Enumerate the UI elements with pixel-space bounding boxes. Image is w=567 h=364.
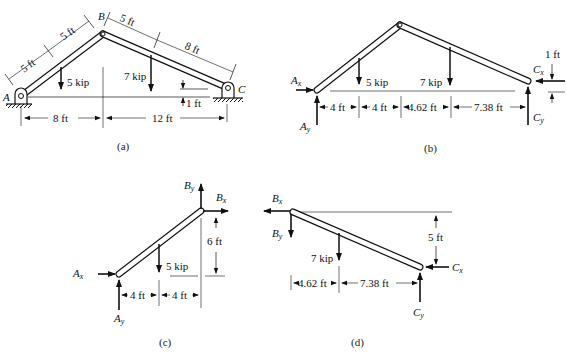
dim-d-2: 7.38 ft <box>360 277 389 289</box>
dim-label-ab-2: 5 ft <box>58 24 77 43</box>
force-bx-label-d: Bx <box>272 192 283 206</box>
force-cy-label-d: Cy <box>413 306 424 320</box>
rise-label-b: 1 ft <box>545 48 560 60</box>
point-b-label: B <box>98 10 105 22</box>
height-label-d: 5 ft <box>428 231 443 243</box>
dim-label-bc-1: 5 ft <box>118 11 136 28</box>
force-by-label-c: By <box>184 179 195 193</box>
dim-label-bc-2: 8 ft <box>183 39 201 56</box>
dim-c-2: 4 ft <box>172 289 187 301</box>
member-bc-b <box>400 25 528 81</box>
force-ax-label-c: Ax <box>72 267 84 281</box>
rise-label-a: 1 ft <box>186 97 201 109</box>
height-label-c: 6 ft <box>207 235 222 247</box>
load-label-5kip-b: 5 kip <box>366 76 389 88</box>
dim-b-2: 4 ft <box>372 101 387 113</box>
member-ab-c <box>119 211 201 274</box>
force-ay-label-c: Ay <box>113 312 125 326</box>
force-cy-label: Cy <box>533 111 544 125</box>
load-label-7kip-b: 7 kip <box>420 76 443 88</box>
force-cx-label-d: Cx <box>452 261 463 275</box>
caption-c: (c) <box>159 336 172 349</box>
load-label-5kip: 5 kip <box>67 76 90 88</box>
member-bc <box>103 34 228 88</box>
truss-figure: 1 ft 5 kip 7 kip 5 ft 5 ft 5 ft 8 ft A B… <box>0 0 567 364</box>
load-label-5kip-c: 5 kip <box>166 260 189 272</box>
force-cx-label: Cx <box>533 63 544 77</box>
caption-b: (b) <box>424 142 437 155</box>
point-a-label: A <box>2 91 10 103</box>
point-c-label: C <box>238 83 246 95</box>
force-ay-label: Ay <box>299 120 311 134</box>
panel-d: Bx By 7 kip 5 ft Cx Cy 4.62 ft 7.38 ft (… <box>264 192 463 349</box>
pin-b <box>101 32 105 36</box>
dim-b-4: 7.38 ft <box>474 101 503 113</box>
panel-a: 1 ft 5 kip 7 kip 5 ft 5 ft 5 ft 8 ft A B… <box>2 10 246 153</box>
force-ax-label: Ax <box>290 74 302 88</box>
panel-c: Ax Ay By Bx 5 kip 6 ft 4 ft 4 ft (c) <box>72 179 228 349</box>
force-bx-label-c: Bx <box>216 191 227 205</box>
caption-a: (a) <box>117 140 130 153</box>
span-label-12ft: 12 ft <box>152 112 172 124</box>
force-by-label-d: By <box>272 227 283 241</box>
caption-d: (d) <box>351 336 364 349</box>
dim-d-1: 4.62 ft <box>298 277 327 289</box>
dim-b-3: 4.62 ft <box>408 101 437 113</box>
dim-c-1: 4 ft <box>130 289 145 301</box>
dim-label-ab-1: 5 ft <box>18 56 37 75</box>
panel-b: Ax Ay 5 kip 7 kip Cx Cy 1 ft 4 ft 4 ft 4… <box>290 23 565 155</box>
span-label-8ft: 8 ft <box>53 112 68 124</box>
load-label-7kip: 7 kip <box>124 70 147 82</box>
load-label-7kip-d: 7 kip <box>311 252 334 264</box>
dim-b-1: 4 ft <box>330 101 345 113</box>
